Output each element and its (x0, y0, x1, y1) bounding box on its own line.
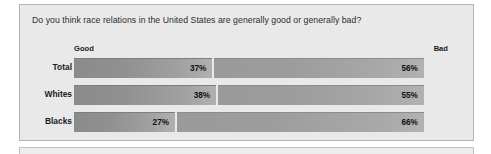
column-header-bad: Bad (408, 44, 448, 53)
chart-question-title: Do you think race relations in the Unite… (32, 15, 462, 25)
bar-bad: 55% (218, 85, 424, 105)
chart-row: Total 37% 56% (20, 58, 475, 78)
bar-good: 27% (74, 112, 175, 132)
poll-chart-panel: Do you think race relations in the Unite… (19, 4, 474, 141)
row-category-label: Total (28, 62, 72, 72)
bar-good: 38% (74, 85, 216, 105)
bar-good-value: 27% (153, 118, 169, 127)
chart-row: Whites 38% 55% (20, 85, 475, 105)
row-bar-track: 38% 55% (74, 85, 448, 105)
chart-row: Blacks 27% 66% (20, 112, 475, 132)
bar-bad-value: 56% (401, 64, 417, 73)
column-header-good: Good (74, 44, 94, 53)
chart-figure: Do you think race relations in the Unite… (0, 0, 491, 154)
row-category-label: Blacks (28, 116, 72, 126)
bar-bad: 66% (177, 112, 424, 132)
row-bar-track: 37% 56% (74, 58, 448, 78)
bar-bad: 56% (214, 58, 423, 78)
bar-good-value: 37% (190, 64, 206, 73)
next-figure-panel-edge (19, 147, 474, 154)
bar-good: 37% (74, 58, 212, 78)
row-category-label: Whites (28, 89, 72, 99)
bar-bad-value: 55% (401, 91, 417, 100)
row-bar-track: 27% 66% (74, 112, 448, 132)
bar-good-value: 38% (194, 91, 210, 100)
bar-bad-value: 66% (401, 118, 417, 127)
